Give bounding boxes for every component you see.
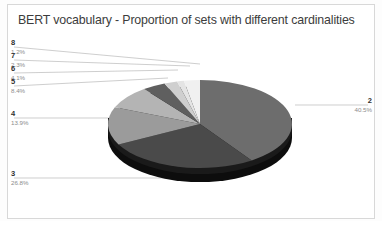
callout-6-category: 6: [11, 65, 25, 73]
callout-5[interactable]: 5 8.4%: [11, 78, 25, 95]
callout-5-category: 5: [11, 78, 25, 86]
callout-4-category: 4: [11, 110, 29, 118]
callout-8-category: 8: [11, 39, 25, 47]
callout-3-category: 3: [11, 170, 29, 178]
callout-3[interactable]: 3 26.8%: [11, 170, 29, 187]
chart-frame: [7, 4, 375, 219]
callout-7-category: 7: [11, 52, 25, 60]
callout-2-category: 2: [354, 97, 372, 105]
callout-4-percent: 13.9%: [11, 119, 29, 127]
chart-title: BERT vocabulary - Proportion of sets wit…: [18, 12, 368, 28]
callout-3-percent: 26.8%: [11, 179, 29, 187]
callout-4[interactable]: 4 13.9%: [11, 110, 29, 127]
callout-2-percent: 40.5%: [354, 106, 372, 114]
page-bottom-margin: [0, 221, 382, 239]
callout-2[interactable]: 2 40.5%: [354, 97, 372, 114]
screenshot-root: BERT vocabulary - Proportion of sets wit…: [0, 0, 382, 239]
callout-5-percent: 8.4%: [11, 87, 25, 95]
